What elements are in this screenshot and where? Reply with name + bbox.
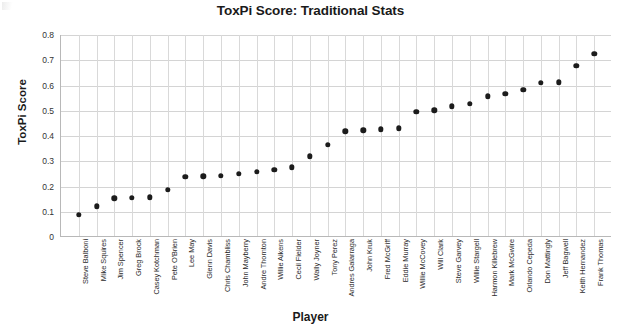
x-axis-tick-label: John Kruk — [365, 239, 374, 272]
x-axis-tick-label: Lee May — [187, 239, 196, 267]
y-axis-tick-label: 0.2 — [26, 182, 54, 192]
chart-title: ToxPi Score: Traditional Stats — [0, 3, 621, 18]
x-axis-tick-label: Andre Thornton — [259, 239, 268, 290]
x-axis-tick-label: Willie McCovey — [418, 239, 427, 289]
x-axis-tick-label: Don Mattingly — [543, 239, 552, 284]
x-axis-tick-label: Frank Thomas — [596, 239, 605, 286]
y-axis-tick-label: 0.5 — [26, 106, 54, 116]
x-axis-tick-label: Orlando Cepeda — [525, 239, 534, 293]
y-axis-tick-label: 0.7 — [26, 55, 54, 65]
x-axis-tick-label: Cecil Fielder — [294, 239, 303, 279]
x-axis-tick-label: Jeff Bagwell — [561, 239, 570, 278]
x-axis-tick-label: Andres Galarraga — [347, 239, 356, 297]
x-axis-tick-label: Willie Aikens — [276, 239, 285, 280]
x-axis-tick-label: Tony Perez — [330, 239, 339, 275]
x-axis-tick-label: John Mayberry — [241, 239, 250, 287]
x-axis-tick-label: Pete O'Brien — [170, 239, 179, 280]
x-axis-tick-label: Steve Balboni — [81, 239, 90, 284]
x-axis-tick-label: Keith Hernandez — [578, 239, 587, 293]
x-axis-tick-label: Chris Chambliss — [223, 239, 232, 292]
chart-container: ToxPi Score: Traditional Stats ToxPi Sco… — [0, 0, 621, 334]
y-axis-tick-label: 0 — [26, 232, 54, 242]
y-axis-tick-label: 0.8 — [26, 30, 54, 40]
y-axis-tick-label: 0.1 — [26, 207, 54, 217]
x-axis-tick-label: Steve Garvey — [454, 239, 463, 283]
x-axis-tick-label: Fred McGriff — [383, 239, 392, 279]
x-axis-tick-label: Glenn Davis — [205, 239, 214, 279]
x-axis-ticks: Steve BalboniMike SquiresJim SpencerGreg… — [60, 239, 611, 309]
x-axis-tick-label: Wally Joyner — [312, 239, 321, 280]
y-axis-tick-label: 0.3 — [26, 156, 54, 166]
y-axis-ticks: 00.10.20.30.40.50.60.70.8 — [0, 35, 621, 237]
x-axis-title: Player — [0, 310, 621, 324]
y-axis-tick-label: 0.4 — [26, 131, 54, 141]
x-axis-tick-label: Greg Brock — [134, 239, 143, 276]
y-axis-tick-label: 0.6 — [26, 81, 54, 91]
x-axis-tick-label: Casey Kotchman — [152, 239, 161, 295]
x-axis-tick-label: Willie Stargell — [472, 239, 481, 283]
x-axis-tick-label: Eddie Murray — [401, 239, 410, 282]
x-axis-tick-label: Harmon Killebrew — [490, 239, 499, 297]
x-axis-tick-label: Mike Squires — [99, 239, 108, 281]
x-axis-tick-label: Jim Spencer — [116, 239, 125, 280]
x-axis-tick-label: Mark McGwire — [507, 239, 516, 286]
x-axis-tick-label: Will Clark — [436, 239, 445, 270]
